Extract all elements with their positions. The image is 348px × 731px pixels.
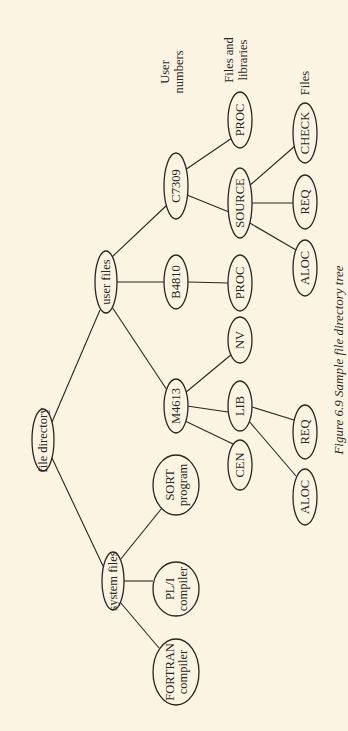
node-req-l: REQ xyxy=(293,405,317,459)
node-source: SOURCE xyxy=(228,168,252,238)
level-label-files: Files xyxy=(298,71,312,95)
node-label: program xyxy=(176,464,190,507)
node-user: user files xyxy=(95,251,117,313)
node-label: ALOC xyxy=(298,480,312,514)
level-label-user-numbers: Usernumbers xyxy=(158,50,186,93)
edge-lib-to-aloc-l xyxy=(248,420,296,476)
node-label: REQ xyxy=(298,190,312,215)
node-label: FORTRAN xyxy=(163,643,177,701)
node-label: CEN xyxy=(233,453,247,478)
node-label: user files xyxy=(99,259,113,305)
node-label: M4613 xyxy=(169,388,183,424)
node-m4613: M4613 xyxy=(164,379,188,433)
node-label: SORT xyxy=(163,469,177,501)
edge-b4810-to-proc-b xyxy=(188,282,228,283)
node-label: compiler xyxy=(176,649,190,694)
node-aloc-l: ALOC xyxy=(293,469,317,525)
node-label: LIB xyxy=(233,396,247,416)
node-proc-c: PROC xyxy=(228,92,252,148)
node-b4810: B4810 xyxy=(164,255,188,309)
node-aloc-s: ALOC xyxy=(293,240,317,296)
node-req-s: REQ xyxy=(293,175,317,229)
edge-m4613-to-cen xyxy=(183,420,233,444)
tree-diagram: file directorysystem filesuser filesFORT… xyxy=(0,0,348,731)
node-nv: NV xyxy=(228,317,252,363)
figure-caption: Figure 6.9 Sample file directory tree xyxy=(331,265,346,455)
node-system: system files xyxy=(102,551,124,611)
node-label: REQ xyxy=(298,420,312,445)
node-label: ALOC xyxy=(298,251,312,285)
caption-text: Figure 6.9 Sample file directory tree xyxy=(331,265,346,455)
level-label-text: Files xyxy=(298,71,312,95)
level-label-text: libraries xyxy=(236,39,250,80)
node-label: NV xyxy=(233,331,247,349)
level-label-text: numbers xyxy=(172,50,186,93)
edge-user-to-c7309 xyxy=(112,205,167,257)
edge-source-to-check xyxy=(249,146,295,186)
node-label: system files xyxy=(106,551,120,611)
edge-lib-to-req-l xyxy=(252,407,294,420)
level-label-text: User xyxy=(158,59,172,83)
node-cen: CEN xyxy=(228,440,252,490)
edge-m4613-to-lib xyxy=(187,406,228,412)
level-labels-layer: UsernumbersFiles andlibrariesFiles xyxy=(158,37,312,96)
node-root: file directory xyxy=(32,407,54,473)
level-label-files-and-libraries: Files andlibraries xyxy=(222,37,250,83)
node-c7309: C7309 xyxy=(164,153,188,219)
node-label: PROC xyxy=(233,267,247,300)
edge-source-to-aloc-s xyxy=(248,222,296,250)
edge-c7309-to-proc-c xyxy=(185,138,232,170)
node-check: CHECK xyxy=(293,103,317,163)
node-label: CHECK xyxy=(298,112,312,154)
node-label: C7309 xyxy=(169,169,183,202)
level-label-text: Files and xyxy=(222,37,236,83)
edge-system-to-fortran xyxy=(120,602,159,648)
edge-c7309-to-source xyxy=(187,195,229,212)
node-sort: SORTprogram xyxy=(153,455,199,515)
edge-root-to-user xyxy=(52,310,100,422)
node-pli: PL/Icompiler xyxy=(153,562,199,616)
node-label: SOURCE xyxy=(233,178,247,228)
node-fortran: FORTRANcompiler xyxy=(153,639,199,705)
edge-root-to-system xyxy=(52,458,103,566)
node-label: PROC xyxy=(233,104,247,137)
node-proc-b: PROC xyxy=(228,255,252,311)
edge-m4613-to-nv xyxy=(185,354,232,393)
figure-6-9-directory-tree: file directorysystem filesuser filesFORT… xyxy=(0,0,348,731)
nodes-layer: file directorysystem filesuser filesFORT… xyxy=(32,92,317,705)
node-label: B4810 xyxy=(169,265,183,298)
node-label: file directory xyxy=(36,407,50,473)
node-label: compiler xyxy=(176,566,190,611)
node-label: PL/I xyxy=(163,578,177,600)
edge-system-to-sort xyxy=(120,508,162,560)
edge-user-to-m4613 xyxy=(112,307,167,390)
node-lib: LIB xyxy=(228,381,252,431)
